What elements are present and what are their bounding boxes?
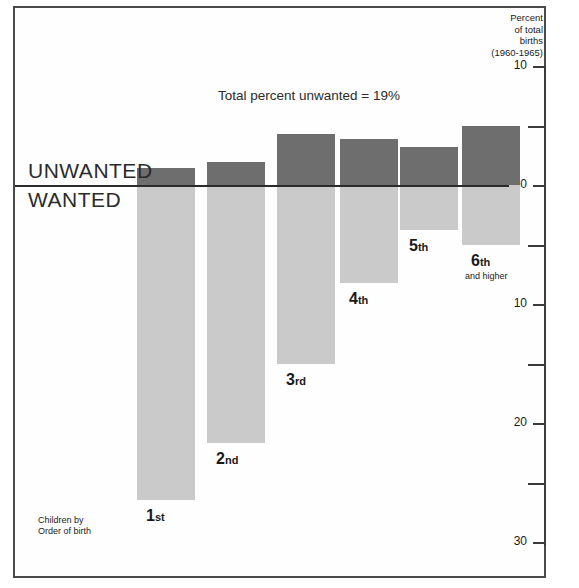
category-number: 6: [471, 252, 480, 269]
category-suffix: st: [155, 511, 165, 523]
bar-unwanted-4th: [340, 139, 398, 185]
y-axis-spine: [544, 68, 546, 546]
axis-title-line-2: of total: [423, 24, 543, 36]
bar-wanted-6th-and-higher: [462, 185, 520, 245]
category-label-4th: 4th: [349, 290, 368, 308]
y-tick-label-10: 10: [514, 296, 527, 310]
bar-unwanted-2nd: [207, 162, 265, 185]
zero-baseline: [15, 185, 509, 187]
y-tick-major-10: [533, 304, 546, 306]
order-of-birth-caption: Children by Order of birth: [38, 515, 91, 537]
category-number: 2: [216, 450, 225, 467]
bar-wanted-3rd: [277, 185, 335, 364]
bar-unwanted-3rd: [277, 134, 335, 185]
total-percent-annotation: Total percent unwanted = 19%: [218, 88, 400, 103]
y-tick-label-30: 30: [514, 534, 527, 548]
y-tick-minor: [528, 126, 546, 128]
category-suffix: rd: [295, 375, 306, 387]
plot-area: 1st2nd3rd4th5th6thand higher UNWANTED WA…: [0, 0, 579, 588]
category-suffix: nd: [225, 454, 238, 466]
category-number: 3: [286, 371, 295, 388]
y-tick-minor: [528, 245, 546, 247]
y-tick-major-30: [533, 542, 546, 544]
category-label-5th: 5th: [409, 237, 428, 255]
bar-wanted-4th: [340, 185, 398, 283]
legend-label-wanted: WANTED: [28, 188, 121, 212]
chart-page: 1st2nd3rd4th5th6thand higher UNWANTED WA…: [0, 0, 579, 588]
axis-title-line-4: (1960-1965): [423, 47, 543, 59]
bar-unwanted-6th-and-higher: [462, 126, 520, 186]
category-label-6th-and-higher: 6th: [471, 252, 490, 270]
category-suffix: th: [418, 241, 428, 253]
category-suffix: th: [358, 294, 368, 306]
y-tick-label-10: 10: [514, 58, 527, 72]
category-label-2nd: 2nd: [216, 450, 238, 468]
category-suffix: th: [480, 256, 490, 268]
y-tick-label-0: 0: [520, 177, 527, 191]
y-tick-minor: [528, 483, 546, 485]
category-sublabel-6th-and-higher: and higher: [465, 271, 508, 281]
bar-unwanted-5th: [400, 147, 458, 185]
category-number: 1: [146, 507, 155, 524]
legend-label-unwanted: UNWANTED: [28, 159, 153, 183]
axis-title: Percent of total births (1960-1965): [423, 12, 543, 58]
bar-wanted-5th: [400, 185, 458, 230]
category-label-1st: 1st: [146, 507, 165, 525]
axis-title-line-1: Percent: [423, 12, 543, 24]
bar-wanted-1st: [137, 185, 195, 500]
y-tick-major-0: [533, 185, 546, 187]
category-number: 5: [409, 237, 418, 254]
category-number: 4: [349, 290, 358, 307]
axis-title-line-3: births: [423, 35, 543, 47]
caption-line-2: Order of birth: [38, 526, 91, 537]
y-tick-major-10: [533, 66, 546, 68]
y-tick-label-20: 20: [514, 415, 527, 429]
y-tick-major-20: [533, 423, 546, 425]
caption-line-1: Children by: [38, 515, 91, 526]
bar-wanted-2nd: [207, 185, 265, 443]
y-tick-minor: [528, 364, 546, 366]
category-label-3rd: 3rd: [286, 371, 306, 389]
